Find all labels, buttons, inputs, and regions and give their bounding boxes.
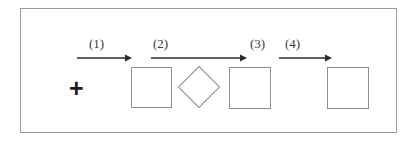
shape-square-1 <box>131 67 172 108</box>
step-label-4: (4) <box>285 37 300 50</box>
arrow-step-2 <box>151 53 248 63</box>
shape-diamond-1 <box>178 66 220 108</box>
shape-square-3 <box>327 67 369 109</box>
diagram-canvas: + (1) (2) (3) (4) <box>0 0 417 142</box>
diagram-frame: + (1) (2) (3) (4) <box>20 8 397 133</box>
step-label-1: (1) <box>89 37 104 50</box>
shape-square-2 <box>229 67 271 109</box>
arrow-step-1 <box>77 53 133 63</box>
arrow-step-4 <box>279 53 333 63</box>
step-label-3: (3) <box>250 37 265 50</box>
plus-sign: + <box>69 76 84 101</box>
step-label-2: (2) <box>153 37 168 50</box>
